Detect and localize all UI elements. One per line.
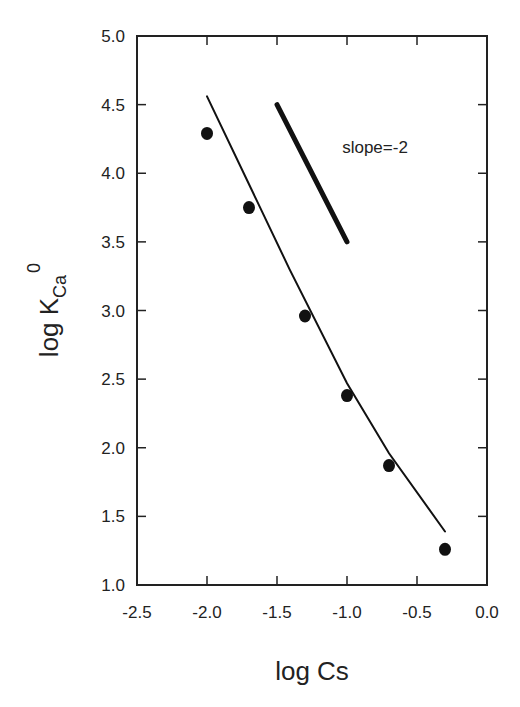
data-point: [243, 201, 255, 214]
y-tick-label: 5.0: [101, 27, 125, 46]
x-tick-label: -1.5: [262, 603, 291, 622]
y-tick-label: 4.0: [101, 164, 125, 183]
series-layer: [201, 96, 451, 555]
svg-text:log KCa0: log KCa0: [24, 263, 70, 357]
slope-annotation: slope=-2: [342, 138, 408, 157]
data-point: [201, 127, 213, 140]
x-tick-label: -1.0: [332, 603, 361, 622]
y-tick-label: 2.5: [101, 370, 125, 389]
y-axis-title: log KCa0: [24, 263, 70, 357]
x-axis-title: log Cs: [275, 656, 349, 686]
y-axis-title-subscript: Ca: [50, 274, 70, 298]
plot-frame: [137, 36, 487, 585]
y-tick-label: 1.5: [101, 507, 125, 526]
data-point: [383, 459, 395, 472]
y-tick-label: 4.5: [101, 96, 125, 115]
slope-reference-line: [277, 105, 347, 242]
fit-line: [207, 96, 445, 531]
y-tick-label: 1.0: [101, 576, 125, 595]
x-tick-label: -2.0: [192, 603, 221, 622]
y-axis-title-main: log K: [34, 297, 64, 357]
y-tick-label: 3.0: [101, 302, 125, 321]
data-point: [299, 309, 311, 322]
data-point: [439, 543, 451, 556]
y-tick-label: 3.5: [101, 233, 125, 252]
plot-border: [137, 36, 487, 585]
x-axis-ticks: -2.5-2.0-1.5-1.0-0.50.0: [122, 36, 498, 622]
y-tick-label: 2.0: [101, 439, 125, 458]
x-tick-label: 0.0: [475, 603, 499, 622]
annotation-layer: slope=-2: [342, 138, 408, 157]
x-tick-label: -0.5: [402, 603, 431, 622]
y-axis-title-superscript: 0: [24, 263, 44, 273]
chart: -2.5-2.0-1.5-1.0-0.50.0 1.01.52.02.53.03…: [0, 0, 520, 707]
x-tick-label: -2.5: [122, 603, 151, 622]
